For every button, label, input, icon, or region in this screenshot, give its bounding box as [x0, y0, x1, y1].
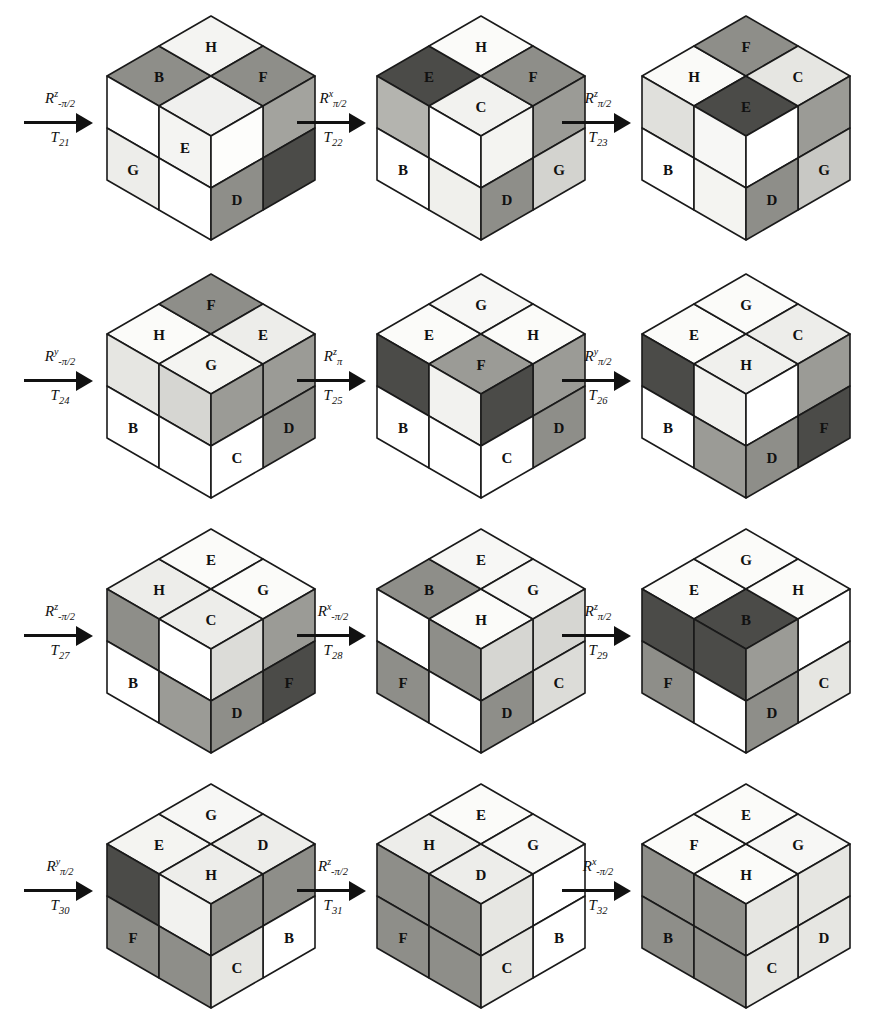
top-face-right-label: F — [258, 69, 267, 85]
top-face-left-label: F — [689, 837, 698, 853]
top-face-back-label: E — [476, 552, 486, 568]
arrow-T26-transform-label: T26 — [548, 387, 648, 406]
arrow-T26-rotation-label: Ryπ/2 — [548, 346, 648, 367]
arrow-slot-10: Ryπ/2T30 — [10, 850, 110, 1021]
top-face-front-label: G — [205, 357, 217, 373]
top-face-back-label: G — [475, 297, 487, 313]
left-face-r1c0-label: B — [663, 420, 673, 436]
cube-row-2: Ry-π/2T24HFGEBDCRzπT25EGFHBDCRyπ/2T26EGH… — [0, 268, 876, 518]
arrow-T24: Ry-π/2T24 — [10, 340, 110, 420]
arrow-T29-rotation-label: Rzπ/2 — [548, 601, 648, 622]
arrow-T31-rotation-label: Rz-π/2 — [283, 856, 383, 877]
arrow-T24-rotation-label: Ry-π/2 — [10, 346, 110, 367]
cube-slot-9: EGBHFCD — [640, 523, 875, 773]
right-face-r1c1-label: D — [502, 705, 513, 721]
top-face-right-label: G — [257, 582, 269, 598]
top-face-right-label: G — [527, 837, 539, 853]
arrow-slot-11: Rz-π/2T31 — [283, 850, 383, 1021]
top-face-back-label: F — [206, 297, 215, 313]
arrow-T23-rotation-label: Rzπ/2 — [548, 88, 648, 109]
arrow-T30-rotation-label: Ryπ/2 — [10, 856, 110, 877]
arrow-T23-shaft — [562, 121, 618, 124]
top-face-right-label: C — [793, 327, 804, 343]
top-face-front-label: D — [476, 867, 487, 883]
arrow-T28-transform-label: T28 — [283, 642, 383, 661]
top-face-back-label: G — [740, 552, 752, 568]
arrow-T31: Rz-π/2T31 — [283, 850, 383, 930]
arrow-T21-transform-label: T21 — [10, 129, 110, 148]
top-face-left-label: H — [423, 837, 435, 853]
top-face-left-label: H — [688, 69, 700, 85]
arrow-T23-transform-label: T23 — [548, 129, 648, 148]
right-face-r1c1-label: C — [502, 960, 513, 976]
top-face-back-label: E — [741, 807, 751, 823]
arrow-T27-transform-label: T27 — [10, 642, 110, 661]
top-face-back-label: F — [741, 39, 750, 55]
arrow-T29-transform-label: T29 — [548, 642, 648, 661]
arrow-T27-rotation-label: Rz-π/2 — [10, 601, 110, 622]
arrow-T27: Rz-π/2T27 — [10, 595, 110, 675]
top-face-right-label: F — [528, 69, 537, 85]
arrow-T28: Rx-π/2T28 — [283, 595, 383, 675]
top-face-left-label: H — [153, 327, 165, 343]
top-face-left-label: E — [689, 582, 699, 598]
arrow-T24-shaft — [24, 379, 80, 382]
top-face-right-label: E — [258, 327, 268, 343]
right-face-r1c1-label: D — [767, 450, 778, 466]
left-face-r0c1-label: E — [180, 140, 190, 156]
arrow-T21: Rz-π/2T21 — [10, 82, 110, 162]
left-face-r1c0-label: F — [128, 930, 137, 946]
right-face-r1c1-label: D — [767, 192, 778, 208]
arrow-slot-12: Rx-π/2T32 — [548, 850, 648, 1021]
arrow-T28-shaft — [297, 634, 353, 637]
left-face-r1c0-label: B — [398, 162, 408, 178]
arrow-T27-shaft — [24, 634, 80, 637]
top-face-left-label: E — [154, 837, 164, 853]
top-face-right-label: G — [792, 837, 804, 853]
arrow-T29-shaft — [562, 634, 618, 637]
arrow-T22-shaft — [297, 121, 353, 124]
left-face-r1c0-label: F — [398, 930, 407, 946]
arrow-T23: Rzπ/2T23 — [548, 82, 648, 162]
arrow-T24-transform-label: T24 — [10, 387, 110, 406]
top-face-back-label: H — [205, 39, 217, 55]
arrow-T30: Ryπ/2T30 — [10, 850, 110, 930]
cube-rotation-figure: Rz-π/2T21BHFEGDRxπ/2T22EHCFBGDRzπ/2T23HF… — [0, 0, 876, 1021]
right-face-r1c1-label: C — [767, 960, 778, 976]
top-face-front-label: H — [740, 357, 752, 373]
arrow-T28-rotation-label: Rx-π/2 — [283, 601, 383, 622]
cube-slot-12: FEHGBDC — [640, 778, 875, 1021]
cube-slot-6: EGHCBFD — [640, 268, 875, 518]
right-face-r1c0-label: G — [818, 162, 830, 178]
cube-12: FEHGBDC — [640, 778, 875, 1018]
top-face-left-label: B — [424, 582, 434, 598]
top-face-left-label: E — [424, 327, 434, 343]
top-face-front-label: E — [741, 99, 751, 115]
top-face-right-label: C — [793, 69, 804, 85]
left-face-r1c0-label: B — [128, 420, 138, 436]
top-face-left-label: B — [154, 69, 164, 85]
left-face-r1c0-label: G — [127, 162, 139, 178]
top-face-front-label: H — [475, 612, 487, 628]
right-face-r1c1-label: D — [232, 192, 243, 208]
arrow-T30-transform-label: T30 — [10, 897, 110, 916]
arrow-T25-transform-label: T25 — [283, 387, 383, 406]
arrow-T21-shaft — [24, 121, 80, 124]
top-face-right-label: G — [527, 582, 539, 598]
arrow-T32-rotation-label: Rx-π/2 — [548, 856, 648, 877]
right-face-r1c1-label: D — [767, 705, 778, 721]
top-face-back-label: G — [740, 297, 752, 313]
top-face-front-label: H — [205, 867, 217, 883]
top-face-right-label: H — [527, 327, 539, 343]
right-face-r1c1-label: C — [232, 960, 243, 976]
arrow-T32-shaft — [562, 889, 618, 892]
top-face-front-label: F — [476, 357, 485, 373]
right-face-r1c0-label: F — [819, 420, 828, 436]
top-face-left-label: E — [424, 69, 434, 85]
arrow-T21-rotation-label: Rz-π/2 — [10, 88, 110, 109]
arrow-T26: Ryπ/2T26 — [548, 340, 648, 420]
right-face-r1c0-label: D — [819, 930, 830, 946]
arrow-T32: Rx-π/2T32 — [548, 850, 648, 930]
left-face-r1c0-label: F — [663, 675, 672, 691]
left-face-r1c0-label: F — [398, 675, 407, 691]
